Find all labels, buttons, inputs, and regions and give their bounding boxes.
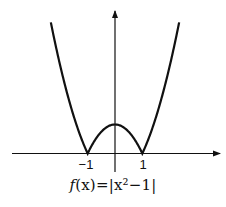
caption-expression: (x)=|x²−1| xyxy=(75,176,156,194)
x-tick-label-neg1: −1 xyxy=(79,157,94,172)
function-caption: f(x)=|x²−1| xyxy=(0,176,226,194)
x-tick-label-pos1: 1 xyxy=(139,157,146,172)
